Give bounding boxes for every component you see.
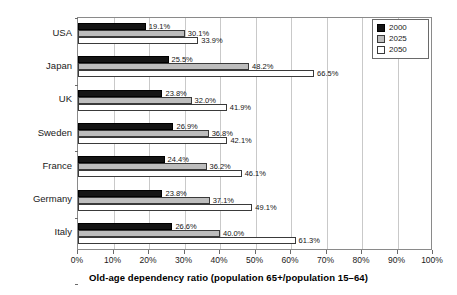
bar-japan-2050 <box>78 70 314 77</box>
bar-uk-2025 <box>78 97 192 104</box>
category-label-usa: USA <box>52 27 72 39</box>
bar-sweden-2000 <box>78 123 173 130</box>
x-axis-tick <box>326 250 327 254</box>
bar-usa-2025 <box>78 30 185 37</box>
category-label-italy: Italy <box>55 226 72 238</box>
bar-france-2000 <box>78 156 165 163</box>
legend-item-2050: 2050 <box>377 45 424 55</box>
bar-value-label: 66.5% <box>317 69 338 79</box>
x-axis-tick-label: 20% <box>128 255 168 266</box>
x-axis-title: Old-age dependency ratio (population 65+… <box>0 272 457 283</box>
x-axis-tick <box>432 250 433 254</box>
x-axis-tick <box>397 250 398 254</box>
legend-label: 2000 <box>389 23 407 33</box>
black-square-icon <box>377 24 385 32</box>
bar-group: 26.9%36.8%42.1% <box>78 118 431 151</box>
bar-usa-2000 <box>78 23 146 30</box>
legend-label: 2025 <box>389 34 407 44</box>
legend: 200020252050 <box>372 19 429 59</box>
bar-uk-2050 <box>78 104 227 111</box>
bar-usa-2050 <box>78 37 198 44</box>
bar-france-2050 <box>78 170 242 177</box>
category-label-japan: Japan <box>46 60 72 72</box>
category-tick <box>75 18 78 19</box>
bar-japan-2025 <box>78 63 249 70</box>
bar-germany-2025 <box>78 197 210 204</box>
x-axis-tick-label: 10% <box>93 255 133 266</box>
bar-sweden-2050 <box>78 137 227 144</box>
x-axis-tick-label: 70% <box>306 255 346 266</box>
gray-square-icon <box>377 35 385 43</box>
legend-item-2000: 2000 <box>377 23 424 33</box>
x-axis-tick-label: 60% <box>270 255 310 266</box>
x-axis-tick-label: 0% <box>57 255 97 266</box>
x-axis-tick <box>219 250 220 254</box>
x-axis-tick-label: 100% <box>412 255 452 266</box>
white-square-icon <box>377 46 385 54</box>
bar-value-label: 41.9% <box>230 103 251 113</box>
x-axis-tick-label: 90% <box>377 255 417 266</box>
bar-italy-2050 <box>78 237 296 244</box>
bar-germany-2000 <box>78 190 162 197</box>
x-axis-tick <box>290 250 291 254</box>
x-axis-tick <box>361 250 362 254</box>
category-label-uk: UK <box>59 93 72 105</box>
x-axis-tick-label: 30% <box>164 255 204 266</box>
x-axis-tick <box>148 250 149 254</box>
legend-item-2025: 2025 <box>377 34 424 44</box>
bar-japan-2000 <box>78 56 169 63</box>
bar-value-label: 33.9% <box>201 36 222 46</box>
category-label-sweden: Sweden <box>38 127 72 139</box>
bar-group: 23.8%32.0%41.9% <box>78 85 431 118</box>
bar-italy-2025 <box>78 230 220 237</box>
x-axis-tick <box>77 250 78 254</box>
category-label-france: France <box>42 160 72 172</box>
bar-value-label: 61.3% <box>299 236 320 246</box>
x-axis-tick-label: 80% <box>341 255 381 266</box>
x-axis-tick-label: 40% <box>199 255 239 266</box>
bar-sweden-2025 <box>78 130 209 137</box>
legend-label: 2050 <box>389 45 407 55</box>
x-axis-tick <box>113 250 114 254</box>
bar-uk-2000 <box>78 90 162 97</box>
bar-group: 23.8%37.1%49.1% <box>78 184 431 217</box>
category-tick <box>75 284 78 285</box>
bar-value-label: 46.1% <box>245 169 266 179</box>
bar-group: 26.6%40.0%61.3% <box>78 218 431 251</box>
bar-value-label: 49.1% <box>255 203 276 213</box>
x-axis-tick <box>184 250 185 254</box>
x-axis-tick <box>255 250 256 254</box>
category-label-germany: Germany <box>33 193 72 205</box>
x-axis-tick-label: 50% <box>235 255 275 266</box>
bar-chart: 19.1%30.1%33.9%25.5%48.2%66.5%23.8%32.0%… <box>0 0 457 295</box>
bar-value-label: 42.1% <box>230 136 251 146</box>
bar-italy-2000 <box>78 223 172 230</box>
bar-france-2025 <box>78 163 207 170</box>
bar-group: 24.4%36.2%46.1% <box>78 151 431 184</box>
bar-germany-2050 <box>78 204 252 211</box>
